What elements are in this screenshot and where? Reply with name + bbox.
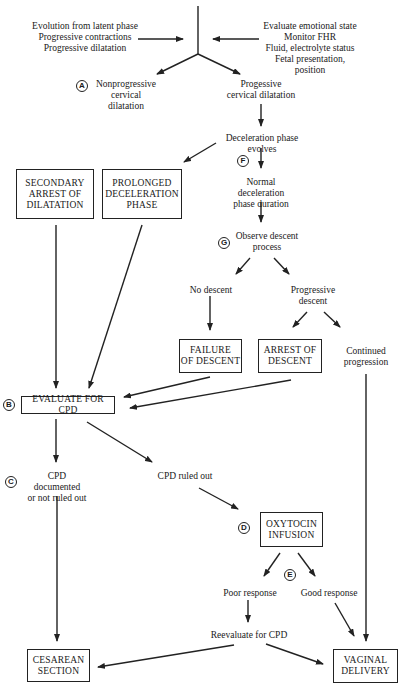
label-no-descent: No descent bbox=[186, 285, 236, 296]
label-cpd-documented: CPD documented or not ruled out bbox=[24, 471, 90, 504]
label-progressive: Progessive cervical dilatation bbox=[226, 79, 296, 101]
label-good-response: Good response bbox=[296, 588, 362, 599]
label-normal-deceleration: Normal deceleration phase duration bbox=[223, 177, 299, 210]
box-vaginal-delivery: VAGINAL DELIVERY bbox=[333, 649, 398, 683]
marker-a-icon: A bbox=[76, 80, 88, 92]
label-reevaluate-cpd: Reevaluate for CPD bbox=[210, 630, 288, 641]
input-conditions-left: Evolution from latent phase Progressive … bbox=[30, 21, 140, 54]
label-deceleration-evolves: Deceleration phase evolves bbox=[212, 133, 312, 155]
box-secondary-arrest: SECONDARY ARREST OF DILATATION bbox=[16, 169, 94, 219]
box-cesarean-section: CESAREAN SECTION bbox=[27, 649, 90, 682]
marker-d-icon: D bbox=[238, 522, 250, 534]
label-observe-descent: Observe descent process bbox=[234, 231, 300, 253]
box-failure-of-descent: FAILURE OF DESCENT bbox=[179, 339, 242, 373]
box-arrest-of-descent: ARREST OF DESCENT bbox=[258, 339, 322, 373]
marker-e-icon: E bbox=[284, 569, 296, 581]
label-poor-response: Poor response bbox=[218, 588, 282, 599]
label-progressive-descent: Progressive descent bbox=[288, 285, 338, 307]
label-continued-progression: Continued progression bbox=[338, 346, 394, 368]
box-evaluate-for-cpd: EVALUATE FOR CPD bbox=[21, 396, 115, 414]
marker-g-icon: G bbox=[218, 237, 230, 249]
label-cpd-ruled-out: CPD ruled out bbox=[152, 471, 218, 482]
marker-f-icon: F bbox=[237, 155, 249, 167]
marker-b-icon: B bbox=[3, 399, 15, 411]
box-prolonged-deceleration: PROLONGED DECELERATION PHASE bbox=[102, 169, 182, 219]
marker-c-icon: C bbox=[5, 476, 17, 488]
box-oxytocin-infusion: OXYTOCIN INFUSION bbox=[260, 512, 323, 547]
input-conditions-right: Evaluate emotional state Monitor FHR Flu… bbox=[262, 21, 358, 76]
label-nonprogressive: Nonprogressive cervical dilatation bbox=[94, 79, 158, 112]
